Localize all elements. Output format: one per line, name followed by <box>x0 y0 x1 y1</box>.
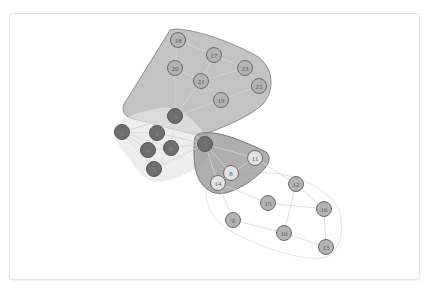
node-19[interactable]: 19 <box>214 93 229 108</box>
node-11[interactable]: 11 <box>248 151 263 166</box>
node-18[interactable]: 18 <box>171 33 186 48</box>
node-21[interactable]: 21 <box>194 74 209 89</box>
node-label: 18 <box>175 37 183 45</box>
node-16[interactable]: 16 <box>317 202 332 217</box>
node-3[interactable]: 3 <box>168 109 183 124</box>
node-7[interactable]: 7 <box>198 137 213 152</box>
node-17[interactable]: 17 <box>207 48 222 63</box>
node-label: 11 <box>252 155 259 163</box>
node-label: 7 <box>203 141 207 149</box>
node-20[interactable]: 20 <box>168 61 183 76</box>
node-13[interactable]: 13 <box>319 240 334 255</box>
network-graph[interactable]: 1234567891011121314151617181920212223 <box>0 0 426 288</box>
node-6[interactable]: 6 <box>164 141 179 156</box>
node-5[interactable]: 5 <box>147 162 162 177</box>
node-label: 8 <box>229 170 233 178</box>
node-12[interactable]: 12 <box>289 177 304 192</box>
node-23[interactable]: 23 <box>238 61 253 76</box>
node-4[interactable]: 4 <box>141 143 156 158</box>
node-label: 10 <box>281 230 289 238</box>
node-1[interactable]: 1 <box>115 125 130 140</box>
node-2[interactable]: 2 <box>150 126 165 141</box>
node-label: 17 <box>211 52 219 60</box>
node-9[interactable]: 9 <box>226 213 241 228</box>
node-label: 12 <box>293 181 301 189</box>
node-14[interactable]: 14 <box>211 176 226 191</box>
node-10[interactable]: 10 <box>277 226 292 241</box>
node-label: 21 <box>198 78 206 86</box>
node-label: 9 <box>231 217 235 225</box>
node-22[interactable]: 22 <box>252 79 267 94</box>
node-label: 19 <box>218 97 226 105</box>
node-label: 20 <box>172 65 180 73</box>
node-label: 13 <box>323 244 331 252</box>
node-label: 6 <box>169 145 173 153</box>
node-8[interactable]: 8 <box>224 166 239 181</box>
node-label: 16 <box>321 206 329 214</box>
node-15[interactable]: 15 <box>261 196 276 211</box>
node-label: 15 <box>265 200 273 208</box>
node-label: 23 <box>242 65 250 73</box>
node-label: 22 <box>256 83 264 91</box>
node-label: 3 <box>173 113 177 121</box>
node-label: 2 <box>155 130 159 138</box>
node-label: 14 <box>215 180 223 188</box>
node-label: 5 <box>152 166 156 174</box>
node-label: 4 <box>146 147 150 155</box>
node-label: 1 <box>120 129 124 137</box>
